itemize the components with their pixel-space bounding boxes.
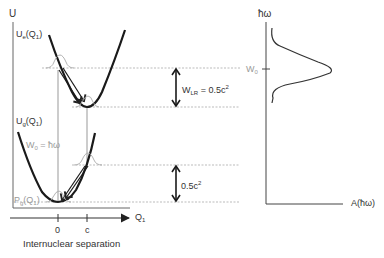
transitions xyxy=(58,70,87,202)
reorg-energy-label: WLR = 0.5c2 xyxy=(182,84,229,96)
transition-energy-label: W0 = ħω xyxy=(26,141,60,151)
absorption-axis-label: A(ħω) xyxy=(351,199,375,208)
tick-label-0: 0 xyxy=(55,226,60,235)
gap-arrows xyxy=(172,69,180,201)
excited-curve-label: Ue(Q1) xyxy=(16,30,42,40)
ground-curve-label: Ug(Q1) xyxy=(16,117,42,127)
excited-state-curve xyxy=(49,30,125,107)
absorption-spectrum xyxy=(272,28,332,103)
q-axis-label: Q1 xyxy=(135,213,145,223)
relaxation-arrows xyxy=(59,68,88,200)
right-axes xyxy=(262,22,343,204)
x-caption: Internuclear separation xyxy=(23,239,120,249)
photon-energy-axis-label: ħω xyxy=(258,9,271,19)
wavepackets xyxy=(46,55,102,202)
peak-energy-label: W0 xyxy=(246,65,258,75)
diagram-canvas xyxy=(0,0,384,258)
tick-label-c: c xyxy=(85,226,90,235)
distribution-label: Pg(Q1) xyxy=(14,196,40,206)
energy-axis-label: U xyxy=(9,9,16,19)
ground-gap-label: 0.5c2 xyxy=(181,180,201,191)
